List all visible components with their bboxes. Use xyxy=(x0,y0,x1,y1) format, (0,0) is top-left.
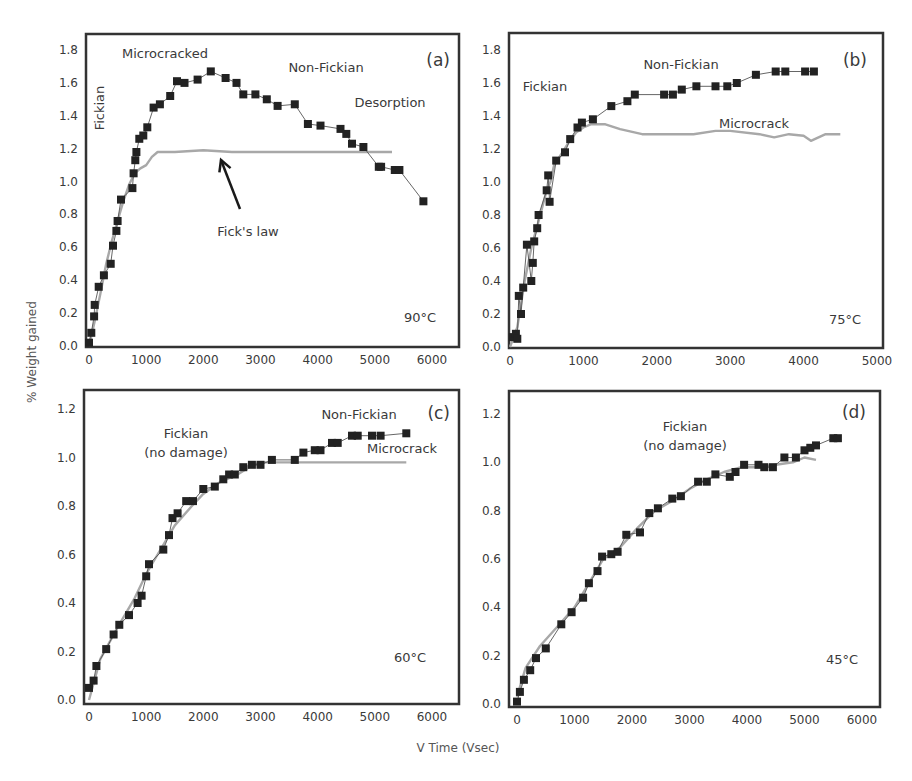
data-point-marker xyxy=(523,241,531,249)
data-point-marker xyxy=(239,463,247,471)
chart-panel-d: 0.00.20.40.60.81.01.20100020003000400050… xyxy=(482,391,880,727)
data-point-marker xyxy=(792,454,800,462)
data-point-marker xyxy=(517,310,525,318)
data-point-marker xyxy=(781,68,789,76)
data-point-marker xyxy=(174,509,182,517)
data-point-marker xyxy=(348,140,356,148)
y-tick-label: 1.2 xyxy=(59,142,78,156)
data-point-marker xyxy=(578,119,586,127)
annotation-label: (no damage) xyxy=(144,445,228,460)
data-point-marker xyxy=(544,171,552,179)
y-tick-label: 0.8 xyxy=(57,499,76,513)
data-point-marker xyxy=(166,92,174,100)
data-point-marker xyxy=(703,478,711,486)
data-point-marker xyxy=(222,74,230,82)
data-point-marker xyxy=(377,163,385,171)
data-point-marker xyxy=(513,335,521,343)
data-point-marker xyxy=(542,644,550,652)
data-point-marker xyxy=(519,284,527,292)
data-point-marker xyxy=(95,283,103,291)
data-point-marker xyxy=(712,82,720,90)
data-point-marker xyxy=(622,531,630,539)
data-point-marker xyxy=(132,148,140,156)
data-point-marker xyxy=(812,441,820,449)
data-point-marker xyxy=(131,156,139,164)
y-tick-label: 1.6 xyxy=(482,76,501,90)
x-tick-label: 4000 xyxy=(788,354,819,368)
y-tick-label: 1.2 xyxy=(57,402,76,416)
x-tick-label: 4000 xyxy=(302,353,333,367)
y-tick-label: 1.8 xyxy=(482,43,501,57)
data-point-marker xyxy=(529,259,537,267)
data-point-marker xyxy=(274,102,282,110)
y-tick-label: 1.2 xyxy=(482,407,501,421)
data-point-marker xyxy=(678,86,686,94)
data-point-marker xyxy=(589,115,597,123)
data-point-marker xyxy=(139,132,147,140)
y-tick-label: 0.2 xyxy=(59,306,78,320)
data-point-marker xyxy=(334,439,342,447)
x-tick-label: 2000 xyxy=(617,713,648,727)
x-tick-label: 1000 xyxy=(131,353,162,367)
y-tick-label: 0.0 xyxy=(482,697,501,711)
temperature-label: 75°C xyxy=(829,312,861,327)
annotation-label: Microcracked xyxy=(122,46,208,61)
data-point-marker xyxy=(740,461,748,469)
data-point-marker xyxy=(660,91,668,99)
data-point-marker xyxy=(299,449,307,457)
y-tick-label: 0.6 xyxy=(57,548,76,562)
x-tick-label: 1000 xyxy=(559,713,590,727)
data-point-marker xyxy=(359,143,367,151)
data-point-marker xyxy=(535,211,543,219)
data-point-marker xyxy=(552,157,560,165)
chart-panel-a: 0.00.20.40.60.81.01.21.41.61.80100020003… xyxy=(59,34,459,367)
annotation-label: Fick's law xyxy=(217,224,279,239)
data-point-marker xyxy=(291,100,299,108)
data-point-marker xyxy=(138,592,146,600)
y-tick-label: 1.4 xyxy=(482,109,501,123)
annotation-label: Fickian xyxy=(92,86,107,131)
data-point-marker xyxy=(526,666,534,674)
data-point-marker xyxy=(90,312,98,320)
y-axis-label: % Weight gained xyxy=(25,301,39,403)
annotation-label: Microcrack xyxy=(367,441,438,456)
x-tick-label: 5000 xyxy=(789,713,820,727)
x-tick-label: 0 xyxy=(85,710,93,724)
data-point-marker xyxy=(173,77,181,85)
data-point-marker xyxy=(594,567,602,575)
data-point-marker xyxy=(211,483,219,491)
y-tick-label: 1.0 xyxy=(482,175,501,189)
data-point-marker xyxy=(561,148,569,156)
data-point-marker xyxy=(566,135,574,143)
data-point-marker xyxy=(530,237,538,245)
data-point-marker xyxy=(125,611,133,619)
data-point-marker xyxy=(233,79,241,87)
data-point-marker xyxy=(268,456,276,464)
y-tick-label: 1.6 xyxy=(59,76,78,90)
annotation-label: Fickian xyxy=(523,79,568,94)
x-tick-label: 3000 xyxy=(674,713,705,727)
data-point-marker xyxy=(112,227,120,235)
x-tick-label: 0 xyxy=(513,713,521,727)
y-tick-label: 0.4 xyxy=(482,274,501,288)
data-point-marker xyxy=(677,492,685,500)
data-point-marker xyxy=(248,461,256,469)
y-tick-label: 0.0 xyxy=(482,340,501,354)
data-point-marker xyxy=(752,71,760,79)
data-point-marker xyxy=(130,169,138,177)
y-tick-label: 0.2 xyxy=(482,307,501,321)
y-tick-label: 0.8 xyxy=(482,208,501,222)
y-tick-label: 0.8 xyxy=(59,207,78,221)
annotation-label: Fickian xyxy=(164,426,209,441)
y-tick-label: 1.0 xyxy=(57,451,76,465)
data-point-marker xyxy=(91,301,99,309)
y-tick-label: 0.0 xyxy=(57,693,76,707)
annotation-label: Non-Fickian xyxy=(288,60,363,75)
data-point-marker xyxy=(231,471,239,479)
data-point-marker xyxy=(156,100,164,108)
data-point-marker xyxy=(692,82,700,90)
y-tick-label: 0.2 xyxy=(482,649,501,663)
x-tick-label: 3000 xyxy=(245,710,276,724)
data-point-marker xyxy=(723,82,731,90)
x-tick-label: 3000 xyxy=(245,353,276,367)
